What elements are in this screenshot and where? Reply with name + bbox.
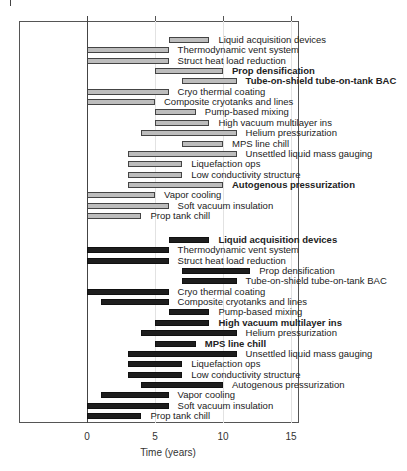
task-bar (155, 320, 209, 326)
task-bar (87, 403, 169, 409)
task-label: Helium pressurization (246, 128, 337, 138)
task-bar (87, 89, 169, 95)
task-bar (182, 278, 236, 284)
task-label: Tube-on-shield tube-on-tank BAC (246, 76, 397, 86)
x-axis-title: Time (years) (140, 447, 196, 458)
task-bar (87, 247, 169, 253)
task-bar (128, 182, 223, 188)
task-bar (169, 37, 210, 43)
task-label: Unsettled liquid mass gauging (246, 349, 373, 359)
x-tick-label-10: 10 (217, 431, 228, 442)
task-bar (87, 213, 141, 219)
task-bar (101, 299, 169, 305)
x-tick-label-15: 15 (285, 431, 296, 442)
task-bar (169, 237, 210, 243)
task-label: Tube-on-shield tube-on-tank BAC (246, 276, 387, 286)
task-bar (87, 289, 169, 295)
task-label: Liquefaction ops (191, 159, 260, 169)
task-bar (87, 192, 155, 198)
task-bar (182, 268, 250, 274)
task-label: Autogenous pressurization (232, 180, 355, 190)
task-label: MPS line chill (205, 339, 266, 349)
task-label: Autogenous pressurization (232, 380, 345, 390)
task-label: Unsettled liquid mass gauging (246, 149, 373, 159)
x-tick-label-0: 0 (84, 431, 90, 442)
task-bar (155, 68, 223, 74)
task-label: Vapor cooling (164, 190, 221, 200)
task-bar (87, 58, 169, 64)
task-bar (141, 330, 236, 336)
task-label: Liquefaction ops (191, 359, 260, 369)
task-label: Pump-based mixing (205, 107, 289, 117)
task-label: MPS line chill (232, 139, 289, 149)
corner-mark (10, 0, 11, 6)
task-bar (128, 172, 182, 178)
task-bar (141, 382, 223, 388)
task-bar (87, 203, 169, 209)
task-label: Helium pressurization (246, 328, 337, 338)
task-bar (155, 120, 209, 126)
task-bar (128, 361, 182, 367)
task-label: Thermodynamic vent system (178, 45, 299, 55)
x-tick-10 (223, 16, 224, 21)
task-label: Prop tank chill (150, 411, 210, 421)
task-bar (155, 341, 196, 347)
task-bar (182, 78, 236, 84)
task-bar (169, 309, 210, 315)
task-label: Prop tank chill (150, 211, 210, 221)
x-tick-15 (291, 16, 292, 21)
task-label: Pump-based mixing (218, 307, 302, 317)
task-bar (128, 161, 182, 167)
task-bar (128, 351, 237, 357)
task-bar (128, 372, 182, 378)
task-bar (128, 151, 237, 157)
x-tick-5 (155, 16, 156, 21)
task-bar (155, 109, 196, 115)
task-bar (141, 130, 236, 136)
task-bar (87, 258, 169, 264)
task-bar (87, 99, 155, 105)
task-bar (87, 47, 169, 53)
task-bar (182, 141, 223, 147)
task-bar (101, 392, 169, 398)
x-tick-label-5: 5 (152, 431, 158, 442)
task-label: Thermodynamic vent system (178, 245, 299, 255)
task-label: Vapor cooling (178, 390, 235, 400)
zero-axis-line (87, 16, 88, 423)
task-bar (87, 413, 141, 419)
